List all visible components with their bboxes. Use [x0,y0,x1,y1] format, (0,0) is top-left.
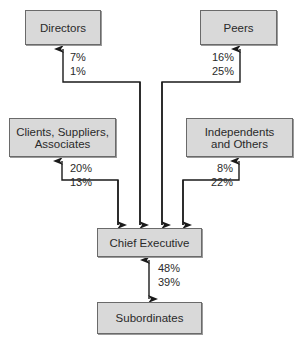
directors-label: Directors [40,22,86,34]
chief-executive-label: Chief Executive [110,237,190,249]
connector-lines [0,0,304,339]
subordinates-pct-top: 48% [158,261,180,275]
clients-percentages: 20% 13% [70,161,92,189]
peers-label: Peers [223,22,253,34]
clients-label: Clients, Suppliers, Associates [16,126,109,150]
subordinates-box: Subordinates [97,302,202,334]
independents-pct-bottom: 22% [209,175,233,189]
clients-pct-top: 20% [70,161,92,175]
subordinates-percentages: 48% 39% [158,261,180,289]
clients-pct-bottom: 13% [70,175,92,189]
subordinates-label: Subordinates [116,312,184,324]
peers-pct-bottom: 25% [212,64,234,78]
directors-percentages: 7% 1% [70,50,86,78]
peers-percentages: 16% 25% [212,50,234,78]
independents-percentages: 8% 22% [209,161,233,189]
directors-pct-top: 7% [70,50,86,64]
independents-box: Independents and Others [186,118,293,157]
independents-pct-top: 8% [209,161,233,175]
directors-pct-bottom: 1% [70,64,86,78]
chief-executive-box: Chief Executive [97,228,202,257]
directors-box: Directors [25,10,101,45]
peers-pct-top: 16% [212,50,234,64]
subordinates-pct-bottom: 39% [158,275,180,289]
independents-label: Independents and Others [197,126,282,150]
peers-box: Peers [200,10,277,45]
clients-box: Clients, Suppliers, Associates [9,118,116,157]
